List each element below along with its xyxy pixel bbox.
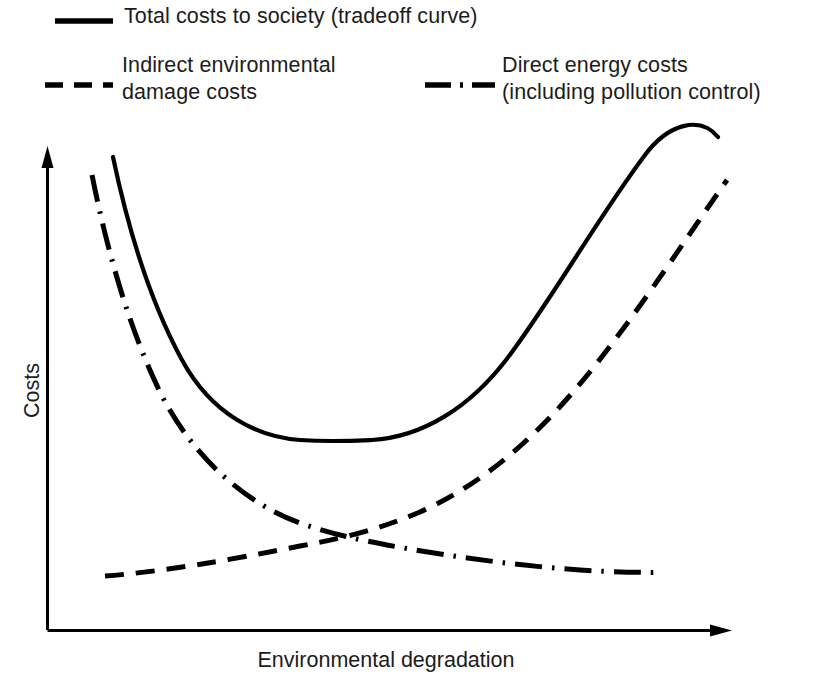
y-axis-arrowhead-icon [42, 146, 54, 168]
series-line-total-costs [113, 125, 718, 441]
chart-figure: Total costs to society (tradeoff curve) … [0, 0, 814, 676]
series-line-direct-energy [92, 175, 658, 573]
x-axis-arrowhead-icon [710, 625, 732, 637]
series-line-indirect-damage [105, 180, 727, 576]
y-axis-label: Costs [20, 341, 45, 441]
plot-area [0, 0, 814, 676]
x-axis-label: Environmental degradation [0, 648, 772, 673]
x-axis [48, 625, 733, 637]
